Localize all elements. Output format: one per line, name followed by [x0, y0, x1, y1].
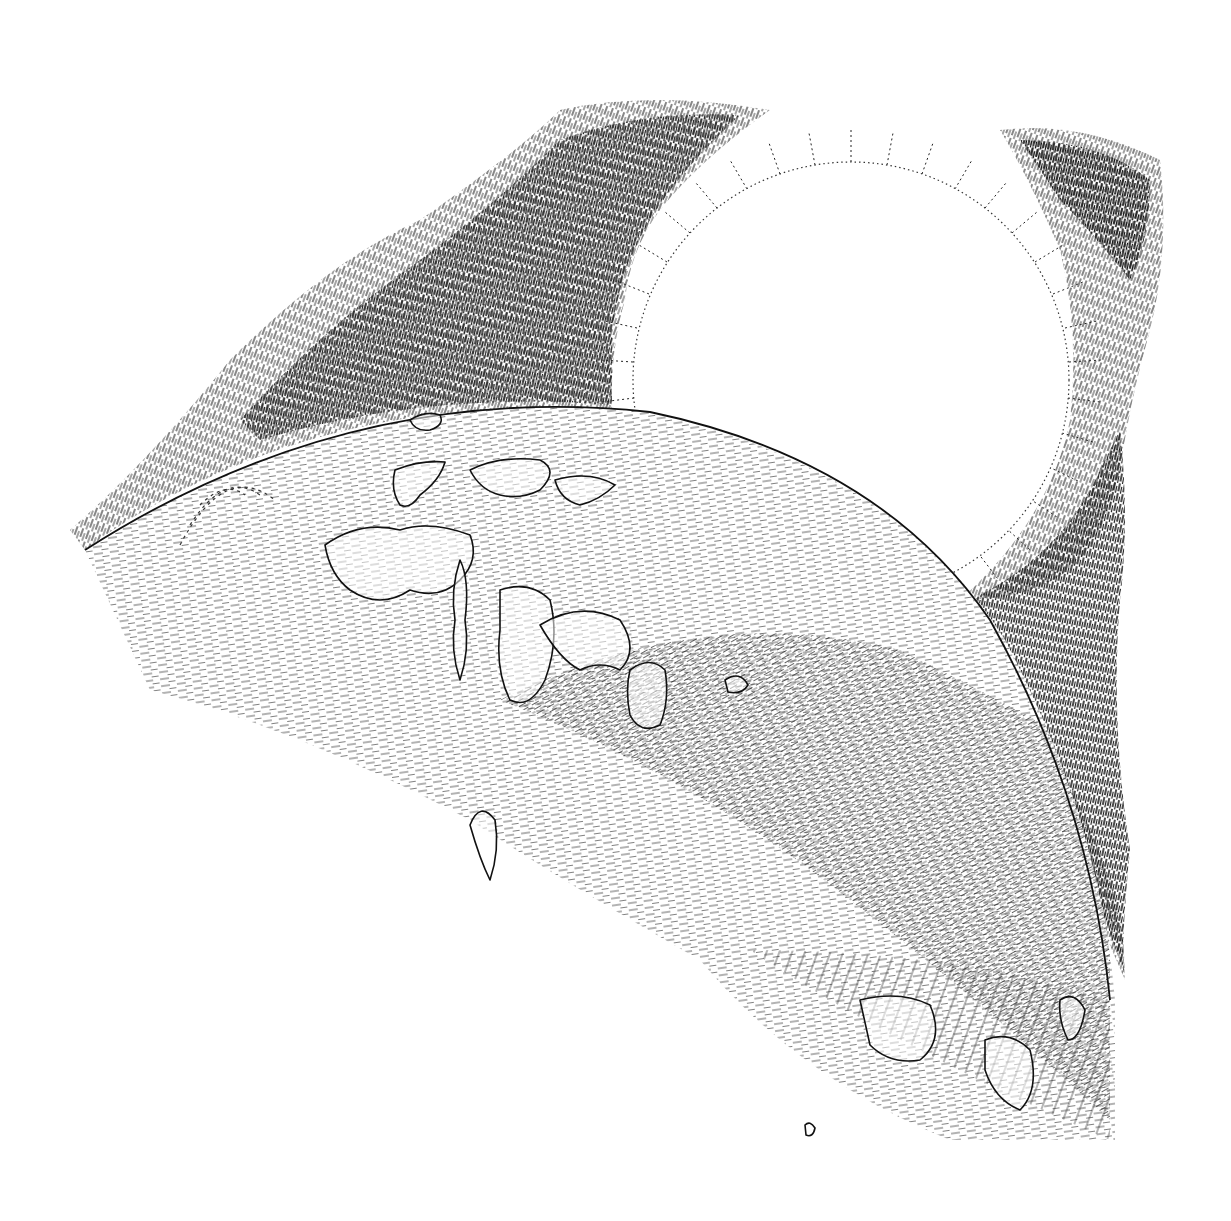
illustration-canvas — [0, 0, 1231, 1221]
planet-sun-illustration — [0, 0, 1231, 1221]
